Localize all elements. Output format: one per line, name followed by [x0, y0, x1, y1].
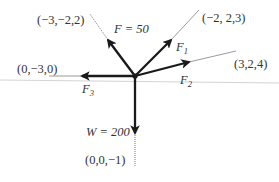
- force-f-arrow: [108, 40, 135, 76]
- f2-label-subscript: 2: [188, 79, 193, 89]
- f3-label-main: F: [81, 82, 90, 96]
- f-direction-label: (−3,−2,2): [37, 13, 84, 27]
- f1-direction-label: (−2, 2,3): [202, 11, 246, 25]
- f3-label-subscript: 3: [89, 88, 94, 98]
- w-direction-label: (0,0,−1): [85, 153, 125, 167]
- force-diagram: (−3,−2,2) F = 50 (−2, 2,3) F1 (3,2,4) F2…: [0, 0, 279, 182]
- f2-direction-label: (3,2,4): [234, 57, 267, 71]
- f-direction-guide: [90, 14, 108, 40]
- f2-label-main: F: [179, 73, 188, 87]
- f3-label: F3: [81, 82, 94, 98]
- f2-label: F2: [179, 73, 193, 89]
- baseline-line: [0, 80, 279, 83]
- f3-direction-label: (0,−3,0): [17, 62, 57, 76]
- f2-direction-guide: [189, 51, 236, 62]
- f1-label-subscript: 1: [184, 46, 188, 56]
- w-value-label: W = 200: [86, 125, 131, 139]
- f1-label-main: F: [175, 40, 184, 54]
- f1-direction-guide: [171, 10, 199, 40]
- origin-point: [132, 73, 137, 78]
- f-value-label: F = 50: [113, 22, 150, 36]
- f1-label: F1: [175, 40, 188, 56]
